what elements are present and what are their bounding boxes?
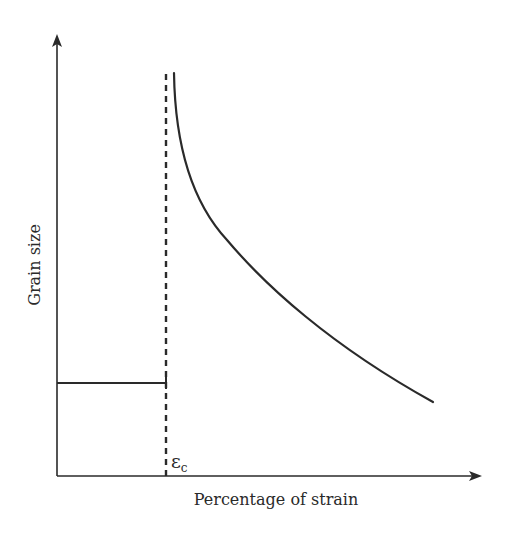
- critical-strain-label: εc: [171, 450, 188, 475]
- grain-size-diagram: εc Percentage of strain Grain size: [0, 0, 506, 533]
- grain-size-decreasing-curve: [174, 73, 433, 402]
- y-axis-label: Grain size: [25, 224, 44, 306]
- x-axis-label: Percentage of strain: [194, 490, 359, 509]
